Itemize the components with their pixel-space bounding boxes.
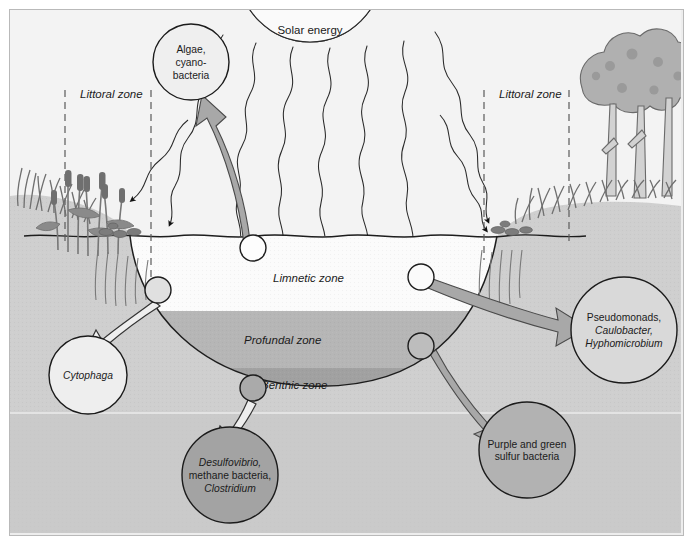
desulfovibrio-methane-clostridium-bubble-line-3: Clostridium [204,483,256,494]
figure-frame: Solar energy [9,9,684,536]
purple-green-sulfur-bacteria-bubble-circle [479,402,575,498]
purple-green-sulfur-bacteria-bubble: Purple and greensulfur bacteria [479,402,575,498]
pseudomonads-bubble: Pseudomonads,Caulobacter,Hyphomicrobium [571,277,677,383]
pseudomonads-bubble-line-1: Pseudomonads, [587,312,661,323]
benthic-zone-label: Benthic zone [261,379,328,391]
lake-ecosystem-figure: Solar energy [0,0,693,544]
source-node-littoral-shore [145,277,171,303]
limnetic-zone-label: Limnetic zone [273,272,344,284]
source-node-profundal-right [408,333,434,359]
sky-background [10,10,681,236]
source-node-benthic-sediment [240,375,266,401]
desulfovibrio-methane-clostridium-bubble: Desulfovibrio,methane bacteria,Clostridi… [182,427,278,523]
purple-green-sulfur-bacteria-bubble-line-2: sulfur bacteria [495,451,560,462]
profundal-zone-label: Profundal zone [244,334,321,346]
littoral-zone-left-label: Littoral zone [80,88,143,100]
source-node-surface-algae [240,235,266,261]
pseudomonads-bubble-line-2: Caulobacter, [595,325,653,336]
lower-ground-band [10,414,681,533]
desulfovibrio-methane-clostridium-bubble-line-2: methane bacteria, [189,470,271,481]
algae-cyanobacteria-bubble-line-3: bacteria [173,70,210,81]
pseudomonads-bubble-line-3: Hyphomicrobium [585,338,663,349]
diagram-canvas: Solar energy [10,10,681,533]
source-node-limnetic-right [408,264,434,290]
desulfovibrio-methane-clostridium-bubble-line-1: Desulfovibrio, [199,457,261,468]
cytophaga-bubble-line-1: Cytophaga [63,370,113,381]
algae-cyanobacteria-bubble-line-1: Algae, [176,44,205,55]
algae-cyanobacteria-bubble-line-2: cyano- [176,57,207,68]
algae-cyanobacteria-bubble: Algae,cyano-bacteria [153,24,229,100]
purple-green-sulfur-bacteria-bubble-line-1: Purple and green [487,439,566,450]
solar-energy-label: Solar energy [277,24,342,36]
cytophaga-bubble: Cytophaga [49,336,127,414]
littoral-zone-right-label: Littoral zone [499,88,562,100]
